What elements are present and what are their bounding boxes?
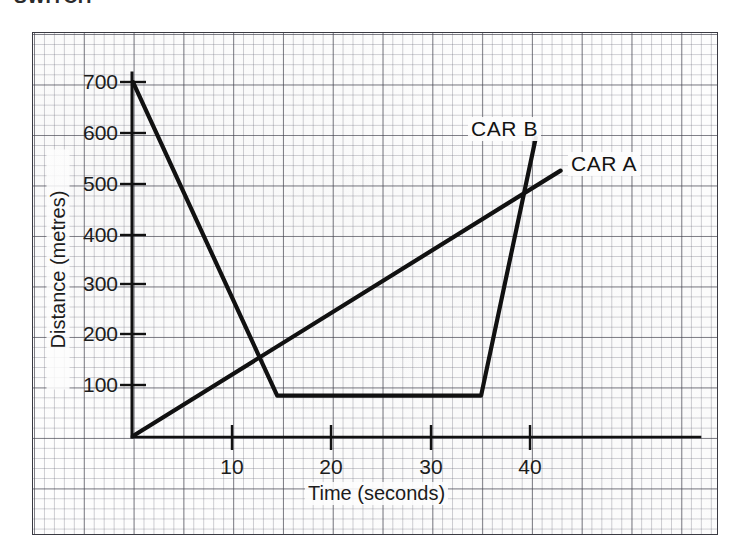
clipped-heading-text: SWITCH <box>14 0 92 8</box>
y-tick-label-600: 600 <box>40 121 118 145</box>
y-axis-title: Distance (metres) <box>47 150 70 390</box>
x-tick-label-20: 20 <box>319 455 342 479</box>
graph-paper-sheet <box>32 32 718 535</box>
x-tick-label-40: 40 <box>518 455 541 479</box>
x-tick-label-30: 30 <box>419 455 442 479</box>
x-axis-title: Time (seconds) <box>305 482 448 505</box>
series-label-car-b: CAR B <box>468 117 541 141</box>
x-tick-label-10: 10 <box>220 455 243 479</box>
paper-texture <box>33 33 717 534</box>
series-label-car-a: CAR A <box>568 152 640 176</box>
y-tick-label-700: 700 <box>40 70 118 94</box>
